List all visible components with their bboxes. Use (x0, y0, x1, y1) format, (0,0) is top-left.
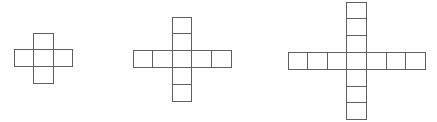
unit-square (153, 51, 173, 68)
unit-square (34, 67, 54, 84)
unit-square (347, 36, 367, 53)
unit-square (327, 52, 347, 69)
unit-square (347, 103, 367, 120)
unit-square (211, 51, 231, 68)
figure-1-plus (0, 0, 437, 122)
unit-square (347, 19, 367, 36)
unit-square (172, 51, 192, 68)
figure-2-svg (0, 0, 437, 122)
unit-square (347, 86, 367, 103)
unit-square (172, 67, 192, 84)
figure-3-svg (0, 0, 437, 122)
unit-square (347, 69, 367, 86)
figure-1-svg (0, 0, 437, 122)
unit-square (133, 51, 153, 68)
figure-sequence-canvas (0, 0, 437, 122)
unit-square (347, 52, 367, 69)
unit-square (14, 50, 34, 67)
unit-square (34, 33, 54, 50)
unit-square (366, 52, 386, 69)
unit-square (192, 51, 212, 68)
unit-square (172, 17, 192, 34)
unit-square (172, 84, 192, 101)
unit-square (308, 52, 328, 69)
unit-square (34, 50, 54, 67)
figure-3-plus (0, 0, 437, 122)
unit-square (386, 52, 406, 69)
unit-square (406, 52, 426, 69)
figure-2-plus (0, 0, 437, 122)
unit-square (347, 2, 367, 19)
unit-square (53, 50, 73, 67)
unit-square (288, 52, 308, 69)
unit-square (172, 34, 192, 51)
